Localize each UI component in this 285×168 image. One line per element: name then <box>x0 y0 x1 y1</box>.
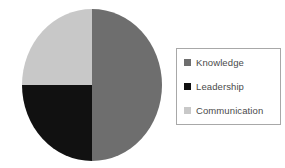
square-swatch-icon <box>184 83 191 90</box>
legend-label-communication: Communication <box>196 106 263 116</box>
legend-item-leadership[interactable]: Leadership <box>184 75 280 99</box>
legend-item-knowledge[interactable]: Knowledge <box>184 51 280 75</box>
legend-label-leadership: Leadership <box>196 82 244 92</box>
pie-chart-svg <box>22 9 162 161</box>
legend-label-knowledge: Knowledge <box>196 58 244 68</box>
square-swatch-icon <box>184 107 191 114</box>
pie-slice-leadership[interactable] <box>22 85 92 161</box>
pie-slice-communication[interactable] <box>22 9 92 85</box>
square-swatch-icon <box>184 59 191 66</box>
pie-chart-figure: Knowledge Leadership Communication <box>0 0 285 168</box>
pie-slice-knowledge[interactable] <box>92 9 162 161</box>
pie-chart-graphic <box>22 9 162 161</box>
legend-item-communication[interactable]: Communication <box>184 99 280 123</box>
chart-legend: Knowledge Leadership Communication <box>176 48 281 125</box>
